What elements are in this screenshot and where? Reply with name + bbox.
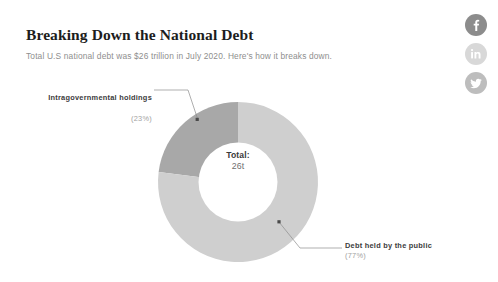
donut-hole [199,143,278,222]
leader-dot-intragovernmental [196,118,199,121]
donut-chart-svg [0,0,498,282]
donut-chart: Total: 26t Intragovernmental holdings (2… [0,0,498,282]
leader-dot-public [277,220,280,223]
callout-public-title: Debt held by the public [345,241,495,251]
callout-public: Debt held by the public (77%) [345,241,495,261]
article-page: Breaking Down the National Debt Total U.… [0,0,498,282]
leader-line-intragovernmental [154,90,198,120]
callout-public-percent: (77%) [345,251,495,261]
callout-intragovernmental: Intragovernmental holdings (23%) [34,84,152,126]
callout-intragovernmental-percent: (23%) [131,114,152,123]
callout-intragovernmental-title: Intragovernmental holdings [48,93,152,102]
